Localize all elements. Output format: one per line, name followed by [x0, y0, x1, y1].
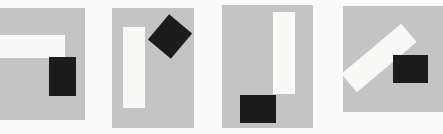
white-bar: [0, 35, 65, 58]
panel-3: [222, 5, 313, 128]
white-bar: [123, 27, 145, 108]
black-block: [240, 95, 276, 123]
panel-4: [343, 6, 443, 112]
black-block: [393, 55, 428, 83]
black-block: [148, 14, 192, 59]
black-block: [49, 57, 76, 96]
white-bar: [273, 12, 295, 94]
panel-2: [112, 8, 194, 128]
panel-1: [0, 8, 85, 120]
